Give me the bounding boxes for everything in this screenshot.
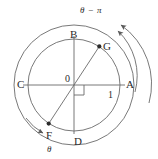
label-theta-inner: θ (47, 145, 51, 154)
label-f: F (46, 130, 52, 141)
label-origin: 0 (65, 74, 70, 84)
label-g: G (103, 41, 111, 52)
label-unit: 1 (108, 90, 113, 100)
label-b: B (70, 29, 77, 40)
point-g-dot (97, 44, 101, 48)
point-f-dot (47, 122, 51, 126)
right-angle-marker (74, 85, 84, 95)
label-d: D (74, 136, 82, 147)
label-theta-minus-pi: θ − π (80, 6, 102, 15)
label-c: C (17, 79, 24, 90)
label-a: A (126, 79, 134, 90)
unit-circle-figure: B G C A 0 1 D F θ θ − π (0, 0, 158, 159)
